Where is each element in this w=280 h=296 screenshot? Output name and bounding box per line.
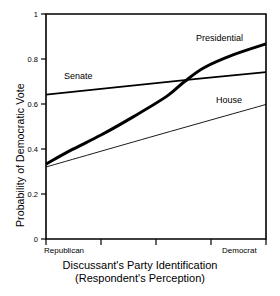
x-category-democrat: Democrat xyxy=(222,247,257,255)
y-tick-label-1: 1 xyxy=(22,11,38,19)
figure: 1 0.8 0.6 0.4 0.2 0 Probability of Democ… xyxy=(0,0,280,296)
x-axis-ticks xyxy=(46,239,266,245)
x-category-republican: Republican xyxy=(44,247,84,255)
y-tick-label-0: 0 xyxy=(22,236,38,244)
series-label-senate: Senate xyxy=(64,72,93,81)
plot-border xyxy=(46,14,266,239)
y-tick-label-0.8: 0.8 xyxy=(18,56,38,64)
series-label-house: House xyxy=(216,96,242,105)
x-axis-title-line2: (Respondent's Perception) xyxy=(0,272,280,285)
x-axis-title-line1: Discussant's Party Identification xyxy=(0,259,280,272)
series-line-house xyxy=(46,104,266,167)
series-layer xyxy=(46,44,266,167)
series-label-presidential: Presidential xyxy=(196,34,243,43)
axis-frame xyxy=(46,14,266,239)
y-axis-title: Probability of Democratic Vote xyxy=(14,83,26,227)
